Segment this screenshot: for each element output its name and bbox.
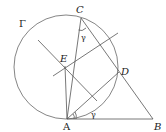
label-D: D: [120, 66, 129, 77]
label-angle-A: γ: [91, 110, 96, 119]
segment-CB: [81, 18, 153, 119]
segment-AE: [65, 66, 67, 119]
label-B: B: [153, 121, 161, 132]
diagram-canvas: Γ C E D A B γ γ: [0, 0, 166, 132]
label-C: C: [76, 4, 84, 15]
segment-AC: [67, 18, 81, 119]
label-E: E: [59, 53, 68, 64]
label-angle-C: γ: [81, 33, 86, 42]
geometry-figure: Γ C E D A B γ γ: [0, 0, 166, 132]
bisector-line-1: [38, 40, 97, 101]
label-A: A: [62, 121, 71, 132]
label-gamma-circle: Γ: [19, 18, 26, 29]
